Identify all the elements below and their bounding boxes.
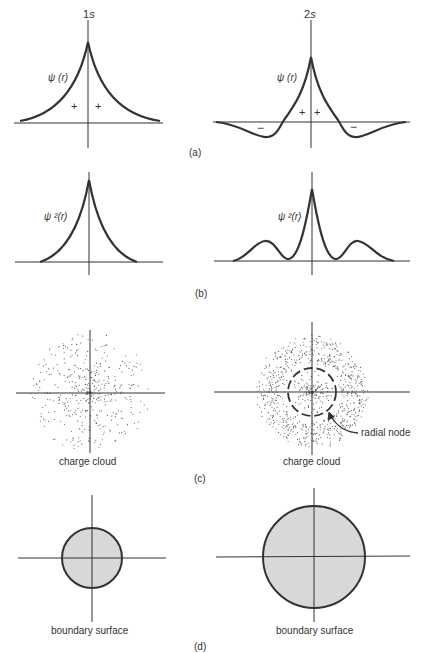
panel-label-d: (d) — [194, 641, 206, 652]
psi2-2s-curve — [233, 189, 394, 261]
caption-boundary-2s: boundary surface — [276, 625, 354, 636]
minus-sign: − — [257, 121, 264, 135]
title-1s: 1s — [83, 8, 95, 20]
orbital-figure: 1s ψ (r) + + 2s ψ (r) + + − − (a) ψ ²(r)… — [0, 0, 423, 653]
panel-b-1s — [15, 172, 163, 275]
panel-a-1s — [14, 20, 163, 148]
plus-sign: + — [95, 100, 101, 112]
plus-sign: + — [71, 100, 77, 112]
panel-label-b: (b) — [195, 288, 207, 299]
radial-node-label: radial node — [361, 427, 411, 438]
psi-label-2s: ψ (r) — [277, 72, 297, 83]
caption-charge-cloud-2s: charge cloud — [283, 456, 340, 467]
boundary-surface-1s — [18, 495, 166, 622]
psi-label-1s: ψ (r) — [48, 72, 68, 83]
charge-cloud-1s — [30, 334, 149, 449]
psi2-label-1s: ψ ²(r) — [44, 211, 67, 222]
caption-charge-cloud-1s: charge cloud — [59, 456, 116, 467]
panel-label-a: (a) — [189, 147, 201, 158]
charge-cloud-2s — [257, 335, 369, 447]
psi2-label-2s: ψ ²(r) — [278, 211, 301, 222]
psi-1s-curve — [20, 42, 160, 121]
caption-boundary-1s: boundary surface — [51, 625, 129, 636]
plus-sign: + — [299, 106, 305, 118]
title-2s: 2s — [304, 8, 316, 20]
panel-b-2s — [214, 172, 410, 275]
boundary-surface-2s — [216, 488, 410, 622]
panel-a-2s — [213, 20, 410, 148]
panel-label-c: (c) — [194, 473, 206, 484]
plus-sign: + — [314, 106, 320, 118]
minus-sign: − — [350, 120, 357, 134]
